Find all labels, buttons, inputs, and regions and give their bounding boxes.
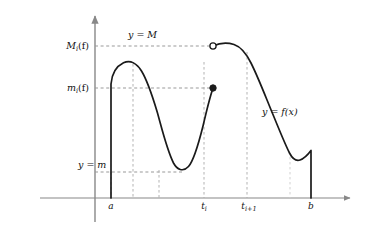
label-y-equals-M: y=M: [127, 29, 157, 40]
x-label-a: a: [108, 201, 113, 211]
curve-right-branch: [213, 43, 311, 198]
equation-labels-group: y=M y=m y=f(x): [77, 29, 298, 170]
y-label-m-i-of-f: mi(f): [67, 82, 89, 95]
markers-group: [210, 43, 216, 91]
label-y-equals-m: y=m: [77, 159, 106, 170]
x-label-t-i-plus-1: ti+1: [241, 201, 256, 213]
y-axis-labels-group: Mi(f) mi(f): [65, 40, 89, 95]
x-label-t-i: ti: [201, 201, 207, 213]
curve-left-branch: [111, 62, 213, 198]
label-y-equals-f-x: y=f(x): [261, 106, 298, 117]
open-circle-marker: [210, 43, 216, 49]
math-figure: Mi(f) mi(f) a ti ti+1 b y=M: [0, 0, 366, 235]
x-label-b: b: [308, 201, 314, 211]
filled-dot-marker: [210, 85, 216, 91]
dashed-verticals-group: [111, 52, 290, 198]
y-label-M-i-of-f: Mi(f): [65, 40, 89, 53]
x-axis-labels-group: a ti ti+1 b: [108, 201, 314, 213]
figure-canvas: Mi(f) mi(f) a ti ti+1 b y=M: [0, 0, 366, 235]
function-curve-group: [111, 43, 311, 198]
